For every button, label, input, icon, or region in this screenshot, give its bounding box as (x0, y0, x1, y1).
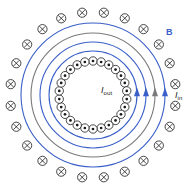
dot-icon (84, 61, 87, 64)
dot-icon (60, 82, 63, 85)
current-in-marker (23, 40, 32, 49)
current-in-marker (165, 122, 174, 131)
current-in-label: Iin (175, 91, 183, 101)
current-in-marker (99, 173, 108, 182)
current-out-marker (73, 61, 81, 69)
current-out-marker (55, 87, 63, 95)
magnetic-field-label: B (166, 28, 173, 37)
current-in-marker (139, 156, 148, 165)
current-out-marker (97, 124, 105, 132)
current-in-marker (38, 25, 47, 34)
dot-icon (76, 124, 79, 127)
current-in-marker (78, 173, 87, 182)
dot-icon (114, 119, 117, 122)
dot-icon (92, 60, 95, 63)
field-direction-arrows (134, 88, 168, 97)
dot-icon (123, 106, 126, 109)
magnetic-field-lines (21, 23, 165, 167)
current-in-subscript: in (178, 95, 183, 101)
current-in-marker (6, 101, 15, 110)
current-in-marker (57, 14, 66, 23)
dot-icon (64, 113, 67, 116)
current-in-marker (78, 8, 87, 17)
dot-icon (92, 128, 95, 131)
dot-icon (100, 127, 103, 130)
inner-coil-current-out-markers (55, 57, 131, 133)
dot-icon (107, 124, 110, 127)
current-out-marker (121, 79, 129, 87)
dot-icon (64, 74, 67, 77)
current-in-marker (12, 122, 21, 131)
dot-icon (120, 74, 123, 77)
current-out-marker (123, 87, 131, 95)
current-in-marker (99, 8, 108, 17)
dot-icon (58, 98, 61, 101)
field-arrow-3 (134, 88, 140, 97)
dot-icon (120, 113, 123, 116)
dot-icon (60, 106, 63, 109)
current-in-marker (171, 101, 180, 110)
current-out-subscript: out (104, 90, 113, 96)
field-line-0 (21, 23, 165, 167)
current-in-marker (6, 80, 15, 89)
current-out-marker (123, 95, 131, 103)
dot-icon (69, 119, 72, 122)
current-out-marker (105, 121, 113, 129)
current-in-marker (154, 141, 163, 150)
dot-icon (125, 98, 128, 101)
dot-icon (114, 68, 117, 71)
current-in-marker (23, 141, 32, 150)
dot-icon (69, 68, 72, 71)
field-arrow-0 (162, 88, 168, 97)
dot-icon (107, 64, 110, 67)
current-in-marker (12, 59, 21, 68)
current-in-marker (57, 167, 66, 176)
current-in-marker (171, 80, 180, 89)
current-out-marker (89, 125, 97, 133)
current-out-marker (81, 124, 89, 132)
field-arrow-1 (152, 88, 158, 97)
current-out-marker (97, 58, 105, 66)
current-out-marker (81, 58, 89, 66)
field-arrow-2 (143, 88, 149, 97)
current-in-marker (139, 25, 148, 34)
dot-icon (125, 90, 128, 93)
current-in-marker (165, 59, 174, 68)
dot-icon (84, 127, 87, 130)
current-out-marker (57, 103, 65, 111)
current-in-marker (120, 14, 129, 23)
current-in-marker (120, 167, 129, 176)
current-out-label: Iout (101, 86, 112, 96)
dot-icon (76, 64, 79, 67)
current-out-marker (55, 95, 63, 103)
toroid-diagram-canvas (0, 0, 193, 184)
toroid-figure: B Iout Iin (0, 0, 193, 184)
current-in-marker (38, 156, 47, 165)
dot-icon (123, 82, 126, 85)
dot-icon (100, 61, 103, 64)
current-out-marker (89, 57, 97, 65)
current-in-marker (154, 40, 163, 49)
dot-icon (58, 90, 61, 93)
